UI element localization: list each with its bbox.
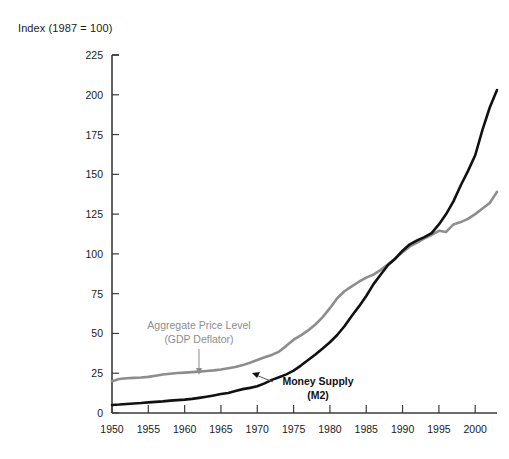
x-tick-label: 1980 <box>318 423 342 435</box>
x-tick-label: 1955 <box>137 423 161 435</box>
money-supply-label-line1: Money Supply <box>282 375 353 387</box>
y-tick-label: 175 <box>85 129 103 141</box>
y-tick-label: 125 <box>85 208 103 220</box>
y-tick-label: 0 <box>97 407 103 419</box>
x-tick-label: 1990 <box>391 423 415 435</box>
series-line-aggregate-price-level <box>112 192 497 381</box>
x-tick-label: 1985 <box>355 423 379 435</box>
y-tick-label: 150 <box>85 168 103 180</box>
aggregate-price-level-label-line2: (GDP Deflator) <box>164 333 233 345</box>
money-supply-leader-line <box>256 375 273 382</box>
x-tick-label: 1965 <box>209 423 233 435</box>
y-tick-label: 200 <box>85 89 103 101</box>
x-tick-label: 1970 <box>246 423 270 435</box>
money-supply-label-line2: (M2) <box>307 389 329 401</box>
aggregate-price-level-label-line1: Aggregate Price Level <box>147 319 250 331</box>
x-tick-label: 1960 <box>173 423 197 435</box>
x-tick-label: 1995 <box>427 423 451 435</box>
y-tick-label: 100 <box>85 248 103 260</box>
y-tick-label: 75 <box>91 288 103 300</box>
x-tick-label: 1950 <box>100 423 124 435</box>
annotation-money-supply: Money Supply (M2) <box>252 372 354 401</box>
x-tick-label: 2000 <box>464 423 488 435</box>
y-tick-label: 225 <box>85 49 103 61</box>
x-tick-label: 1975 <box>282 423 306 435</box>
series-line-money-supply <box>112 90 497 405</box>
chart-figure: Index (1987 = 100) 025507510012515017520… <box>0 0 509 459</box>
x-axis-ticks: 1950195519601965197019751980198519901995… <box>100 405 487 435</box>
money-supply-arrowhead <box>252 372 260 378</box>
y-tick-label: 50 <box>91 327 103 339</box>
y-axis-ticks: 0255075100125150175200225 <box>85 49 119 419</box>
y-tick-label: 25 <box>91 367 103 379</box>
line-chart-plot: 0255075100125150175200225 19501955196019… <box>0 0 509 459</box>
